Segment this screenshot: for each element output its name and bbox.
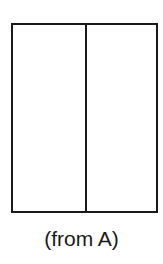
rectangle-view xyxy=(11,23,158,213)
view-caption: (from A) xyxy=(0,226,163,252)
vertical-divider-line xyxy=(85,25,87,211)
